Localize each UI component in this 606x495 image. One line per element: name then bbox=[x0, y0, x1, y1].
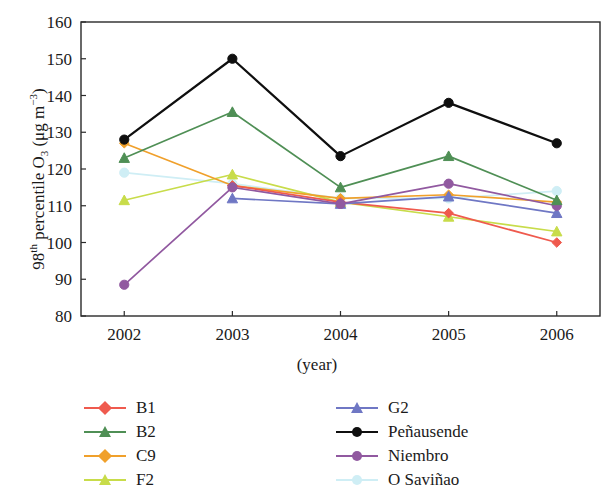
legend-swatch bbox=[336, 399, 378, 417]
legend-marker-diamond bbox=[98, 449, 112, 463]
data-point-circle bbox=[120, 168, 129, 177]
legend-swatch bbox=[84, 447, 126, 465]
legend-swatch bbox=[84, 423, 126, 441]
legend-label: O Saviñao bbox=[388, 470, 459, 490]
legend-item-g2[interactable]: G2 bbox=[336, 396, 468, 420]
legend-label: Niembro bbox=[388, 446, 448, 466]
data-point-circle bbox=[228, 183, 237, 192]
legend-marker-circle bbox=[352, 427, 362, 437]
y-tick-label: 130 bbox=[47, 123, 73, 142]
legend-label: B1 bbox=[136, 398, 156, 418]
x-tick-label: 2002 bbox=[107, 325, 141, 344]
data-point-circle bbox=[228, 54, 237, 63]
data-point-circle bbox=[552, 139, 561, 148]
data-point-circle bbox=[336, 199, 345, 208]
legend-item-niembro[interactable]: Niembro bbox=[336, 444, 468, 468]
y-axis-title: 98th percentile O3 (μg m−3) bbox=[28, 44, 50, 314]
legend-label: C9 bbox=[136, 446, 156, 466]
data-point-triangle bbox=[552, 195, 562, 205]
legend-item-o-savi-ao[interactable]: O Saviñao bbox=[336, 468, 468, 492]
series-pe-ausende bbox=[120, 54, 562, 161]
legend-item-pe-ausende[interactable]: Peñausende bbox=[336, 420, 468, 444]
data-point-triangle bbox=[227, 169, 237, 179]
x-tick-label: 2005 bbox=[432, 325, 466, 344]
plot-frame bbox=[81, 22, 600, 316]
legend-swatch bbox=[336, 447, 378, 465]
y-tick-label: 120 bbox=[47, 160, 73, 179]
legend-column-right: G2PeñausendeNiembroO Saviñao bbox=[336, 396, 468, 492]
series-line bbox=[124, 59, 557, 156]
legend-swatch bbox=[84, 399, 126, 417]
data-point-circle bbox=[444, 98, 453, 107]
line-chart-svg: 8090100110120130140150160200220032004200… bbox=[0, 0, 606, 400]
data-point-triangle bbox=[119, 153, 129, 163]
chart-plot-area: 8090100110120130140150160200220032004200… bbox=[0, 0, 606, 400]
y-tick-label: 140 bbox=[47, 87, 73, 106]
data-point-diamond bbox=[552, 238, 562, 248]
data-point-circle bbox=[444, 179, 453, 188]
y-tick-label: 150 bbox=[47, 50, 73, 69]
legend-marker-circle bbox=[352, 451, 362, 461]
legend-label: Peñausende bbox=[388, 422, 468, 442]
legend-marker-diamond bbox=[98, 401, 112, 415]
legend-swatch bbox=[84, 471, 126, 489]
legend-marker-triangle bbox=[99, 474, 111, 485]
x-axis-title-text: (year) bbox=[297, 355, 338, 374]
legend-item-f2[interactable]: F2 bbox=[84, 468, 156, 492]
legend-marker-circle bbox=[352, 475, 362, 485]
legend-marker-triangle bbox=[99, 426, 111, 437]
legend-label: F2 bbox=[136, 470, 154, 490]
x-tick-label: 2003 bbox=[215, 325, 249, 344]
legend-label: G2 bbox=[388, 398, 409, 418]
y-tick-label: 160 bbox=[47, 13, 73, 32]
chart-legend: B1B2C9F2 G2PeñausendeNiembroO Saviñao bbox=[0, 396, 606, 495]
data-point-triangle bbox=[443, 151, 453, 161]
legend-item-b2[interactable]: B2 bbox=[84, 420, 156, 444]
data-point-circle bbox=[336, 152, 345, 161]
x-tick-label: 2006 bbox=[540, 325, 574, 344]
y-tick-label: 90 bbox=[55, 270, 72, 289]
figure-container: 8090100110120130140150160200220032004200… bbox=[0, 0, 606, 495]
legend-marker-triangle bbox=[351, 402, 363, 413]
y-tick-label: 80 bbox=[55, 307, 72, 326]
data-point-triangle bbox=[227, 107, 237, 117]
legend-label: B2 bbox=[136, 422, 156, 442]
y-tick-label: 100 bbox=[47, 234, 73, 253]
series-g2 bbox=[227, 191, 562, 217]
legend-item-c9[interactable]: C9 bbox=[84, 444, 156, 468]
x-axis-title: (year) bbox=[0, 355, 606, 375]
legend-swatch bbox=[336, 423, 378, 441]
legend-swatch bbox=[336, 471, 378, 489]
data-point-circle bbox=[120, 135, 129, 144]
data-point-circle bbox=[120, 280, 129, 289]
y-tick-label: 110 bbox=[47, 197, 72, 216]
legend-column-left: B1B2C9F2 bbox=[84, 396, 156, 492]
x-tick-label: 2004 bbox=[324, 325, 359, 344]
legend-item-b1[interactable]: B1 bbox=[84, 396, 156, 420]
